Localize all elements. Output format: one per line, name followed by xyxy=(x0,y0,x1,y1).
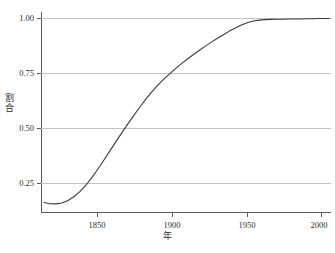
x-tick-label-1900: 1900 xyxy=(152,220,192,230)
chart-container: 割 合 1.00 0.75 0.50 0.25 1850 1900 1950 2… xyxy=(0,0,335,253)
x-tick-mark-1850 xyxy=(97,213,98,217)
y-axis-title-char-1: 割 xyxy=(3,93,16,103)
x-tick-label-1850: 1850 xyxy=(77,220,117,230)
x-tick-mark-1900 xyxy=(172,213,173,217)
x-tick-mark-2000 xyxy=(321,213,322,217)
x-tick-label-2000: 2000 xyxy=(299,220,335,230)
y-axis-title: 割 合 xyxy=(3,93,16,113)
y-tick-label-4: 0.25 xyxy=(19,179,34,188)
x-tick-label-1950: 1950 xyxy=(227,220,267,230)
series-line-chart xyxy=(41,12,331,212)
x-axis-title: 年 xyxy=(0,231,335,242)
y-tick-label-3: 0.50 xyxy=(19,124,34,133)
y-axis-title-char-2: 合 xyxy=(3,103,16,113)
x-tick-mark-1950 xyxy=(247,213,248,217)
x-axis-line xyxy=(41,212,331,213)
y-tick-label-1: 1.00 xyxy=(19,14,34,23)
series-polyline xyxy=(44,19,330,204)
plot-area xyxy=(41,12,331,212)
y-tick-label-2: 0.75 xyxy=(19,69,34,78)
